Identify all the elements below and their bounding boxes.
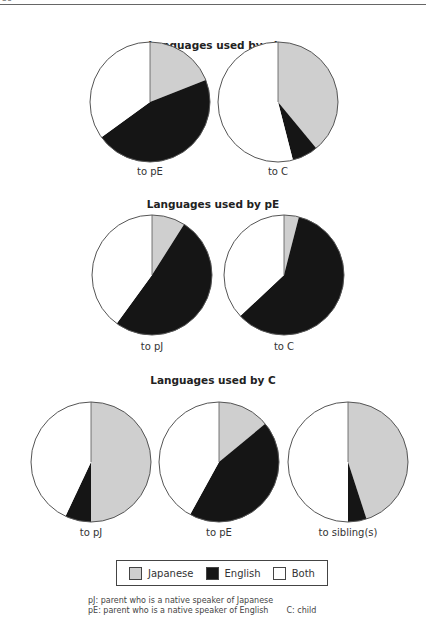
label-c-to-siblings: to sibling(s) <box>288 527 408 538</box>
pie-pj-to-pe <box>90 42 210 162</box>
label-c-to-pj: to pJ <box>31 527 151 538</box>
label-c-to-pe: to pE <box>159 527 279 538</box>
label-pj-to-c: to C <box>218 166 338 177</box>
note-pj: pJ: parent who is a native speaker of Ja… <box>88 596 316 606</box>
label-pe-to-pj: to pJ <box>92 341 212 352</box>
english-swatch-icon <box>206 567 219 580</box>
legend-label-japanese: Japanese <box>148 568 193 579</box>
pie-c-to-pj <box>31 402 151 522</box>
footnotes: pJ: parent who is a native speaker of Ja… <box>88 596 316 616</box>
pie-pj-to-c <box>218 42 338 162</box>
legend-item-english: English <box>206 567 261 580</box>
japanese-swatch-icon <box>129 567 142 580</box>
pie-c-to-siblings <box>288 402 408 522</box>
legend-label-both: Both <box>292 568 315 579</box>
label-pe-to-c: to C <box>224 341 344 352</box>
pie-pe-to-pj <box>92 215 212 335</box>
slice-japanese <box>91 402 151 522</box>
pie-pe-to-c <box>224 215 344 335</box>
label-pj-to-pe: to pE <box>90 166 210 177</box>
note-pe: pE: parent who is a native speaker of En… <box>88 606 268 615</box>
legend-item-both: Both <box>273 567 315 580</box>
both-swatch-icon <box>273 567 286 580</box>
note-c: C: child <box>286 606 316 615</box>
legend-label-english: English <box>225 568 261 579</box>
legend-item-japanese: Japanese <box>129 567 193 580</box>
pie-c-to-pe <box>159 402 279 522</box>
slice-both <box>288 402 348 522</box>
legend: Japanese English Both <box>116 560 328 586</box>
